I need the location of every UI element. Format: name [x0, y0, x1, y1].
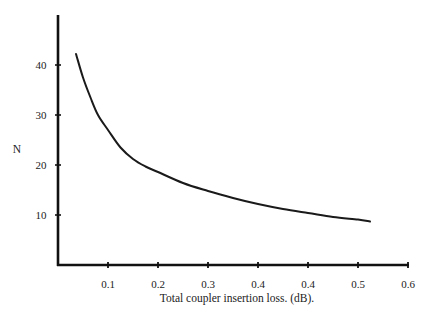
x-tick-label: 0.6: [401, 278, 415, 290]
x-axis-label: Total coupler insertion loss. (dB).: [160, 292, 315, 305]
data-line: [76, 54, 370, 222]
x-tick-label: 0.4: [251, 278, 265, 290]
x-tick-label: 0.2: [151, 278, 165, 290]
chart: 10203040 0.10.20.30.40.40.50.6 N Total c…: [0, 0, 430, 318]
y-axis-label: N: [13, 143, 22, 155]
x-tick-label: 0.5: [351, 278, 365, 290]
y-tick-label: 20: [36, 159, 48, 171]
y-tick-label: 10: [36, 209, 48, 221]
y-tick-label: 30: [36, 109, 48, 121]
x-tick-label: 0.3: [201, 278, 215, 290]
axes: [57, 15, 409, 266]
x-tick-label: 0.1: [101, 278, 115, 290]
x-tick-label: 0.4: [301, 278, 315, 290]
y-tick-label: 40: [36, 59, 48, 71]
